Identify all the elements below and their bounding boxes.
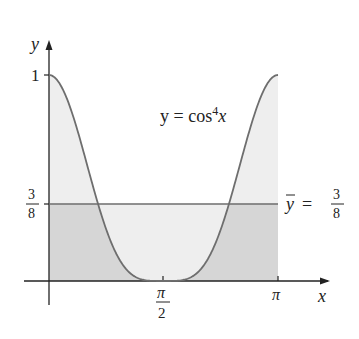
curve-label: y = cos4x — [160, 104, 226, 126]
mean-label-den: 8 — [333, 206, 340, 221]
x-tick-label-pi-2-num: π — [157, 284, 166, 301]
y-axis-label: y — [29, 34, 39, 54]
x-tick-label-pi: π — [272, 286, 281, 303]
y-axis-arrow-icon — [46, 40, 53, 50]
y-tick-label-3-8-num: 3 — [28, 187, 35, 202]
mean-label-eq: = — [302, 194, 312, 214]
mean-label-num: 3 — [333, 187, 340, 202]
x-tick-label-pi-2-den: 2 — [158, 305, 166, 321]
x-axis-label: x — [317, 286, 326, 306]
mean-label-y: y — [284, 194, 294, 214]
chart: y x 1 3 8 π 2 π y = cos4x y = 3 8 — [0, 0, 359, 339]
y-tick-label-1: 1 — [31, 66, 40, 85]
x-axis-arrow-icon — [320, 278, 330, 285]
y-tick-label-3-8-den: 8 — [28, 206, 35, 221]
